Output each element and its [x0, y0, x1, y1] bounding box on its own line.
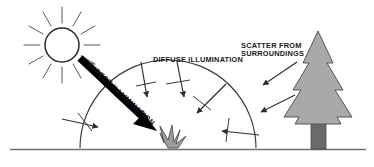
scatter-arrow-upper: [263, 62, 297, 85]
sun-icon: [24, 7, 100, 83]
scatter-surroundings-label-line2: SURROUNDINGS: [241, 49, 304, 58]
illumination-diagram: DIRECT ILLUMINATION DIFFUSE ILLUMINATION…: [0, 0, 374, 167]
diffuse-arrow-top-left: [141, 62, 147, 97]
diffuse-arrow-right-upper: [197, 84, 226, 113]
plant-target: [160, 125, 186, 148]
diagram-canvas: DIRECT ILLUMINATION DIFFUSE ILLUMINATION…: [0, 0, 374, 167]
diffuse-arrow-top-right: [177, 62, 184, 97]
diffuse-arrow-left: [62, 119, 98, 127]
dome-crossing-ticks: [78, 80, 229, 142]
diffuse-illumination-label: DIFFUSE ILLUMINATION: [153, 55, 243, 64]
